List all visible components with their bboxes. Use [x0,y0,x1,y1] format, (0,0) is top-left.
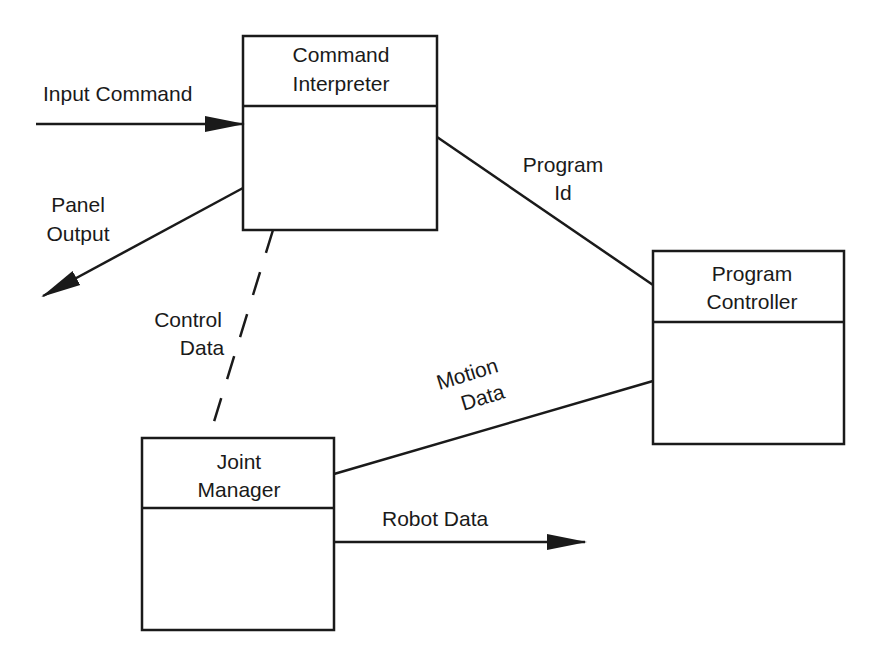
edge-input-command[interactable]: Input Command [36,82,243,124]
edge-motion-data[interactable]: Motion Data [334,353,653,474]
edge-panel-output[interactable]: Panel Output [43,188,243,296]
edge-label: Robot Data [382,507,489,530]
edge-label: Output [46,222,109,245]
edge-label: Control [154,308,222,331]
edge-program-id[interactable]: Program Id [437,137,653,285]
edge-control-data[interactable]: Control Data [154,230,273,438]
node-title-line: Command [293,43,390,66]
edge-label: Program [523,153,604,176]
node-program-controller[interactable]: Program Controller [653,251,844,444]
edge-label: Panel [51,193,105,216]
node-title-line: Manager [198,478,281,501]
node-command-interpreter[interactable]: Command Interpreter [243,36,437,230]
edge-label: Id [554,181,572,204]
node-title-line: Joint [217,450,262,473]
node-title-line: Controller [706,290,797,313]
node-title-line: Interpreter [293,72,390,95]
edge-robot-data[interactable]: Robot Data [334,507,585,542]
edge-label: Input Command [43,82,192,105]
diagram-canvas: Command Interpreter Program Controller J… [0,0,880,668]
edge-label: Data [180,336,225,359]
node-joint-manager[interactable]: Joint Manager [142,438,334,630]
node-title-line: Program [712,262,793,285]
